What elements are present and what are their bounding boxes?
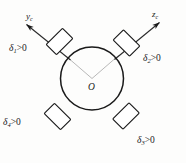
gimbal-2-label-sub: 2 — [147, 57, 150, 64]
gimbal-3-label-op: >0 — [145, 135, 155, 145]
gimbal-3-label-sub: 3 — [141, 139, 144, 146]
z-axis-label-sub: c — [156, 14, 159, 20]
gimbal-1-label-sub: 1 — [13, 47, 16, 54]
cmg-configuration-figure: yc zc δ1>0 δ2>0 δ3>0 δ4>0 O — [0, 0, 186, 163]
gimbal-3-body — [113, 103, 140, 130]
gimbal-1-body — [46, 28, 73, 55]
y-axis-label-sub: c — [30, 16, 33, 22]
gimbal-2-label-op: >0 — [151, 53, 161, 63]
gimbal-4-label-sub: 4 — [7, 121, 10, 128]
z-axis-label: zc — [152, 10, 158, 19]
gimbal-4-label-op: >0 — [11, 117, 21, 127]
y-axis-label: yc — [26, 12, 33, 21]
gimbal-4-label: δ4>0 — [3, 118, 21, 128]
gimbal-2-body — [113, 30, 140, 57]
gimbal-1-label-op: >0 — [17, 43, 27, 53]
gimbal-2-label: δ2>0 — [143, 54, 161, 64]
gimbal-1-label: δ1>0 — [9, 44, 27, 54]
gimbal-4-body — [44, 103, 71, 130]
z-axis-label-main: z — [152, 9, 156, 19]
gimbal-3-label: δ3>0 — [137, 136, 155, 146]
origin-label: O — [88, 83, 95, 93]
